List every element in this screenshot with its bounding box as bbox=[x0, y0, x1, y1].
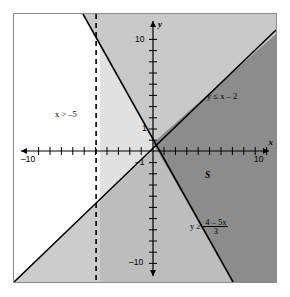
label-y-le-x-minus-2: y ≤ x – 2 bbox=[207, 92, 237, 101]
inequality-graph-figure: x y –10 10 10 1 –1 –10 y ≤ x – 2 x > –5 … bbox=[0, 0, 290, 297]
x-tick-label-10: 10 bbox=[254, 155, 263, 164]
y-tick-label-10: 10 bbox=[135, 35, 144, 44]
label-x-gt-neg5: x > –5 bbox=[55, 110, 77, 119]
plot-canvas bbox=[14, 14, 276, 282]
y-tick-label-neg1: –1 bbox=[135, 158, 144, 167]
label-y-ge-fraction: y ≥ 4 – 5x 3 bbox=[190, 218, 228, 237]
y-tick-label-neg10: –10 bbox=[129, 258, 143, 267]
plot-frame: x y –10 10 10 1 –1 –10 y ≤ x – 2 x > –5 … bbox=[13, 13, 277, 283]
y-tick-label-1: 1 bbox=[142, 124, 147, 133]
x-tick-label-neg10: –10 bbox=[21, 155, 35, 164]
x-axis-label: x bbox=[269, 138, 274, 147]
fraction: 4 – 5x 3 bbox=[203, 218, 228, 237]
fraction-prefix: y ≥ bbox=[190, 221, 201, 231]
fraction-denominator: 3 bbox=[203, 227, 228, 236]
label-solution-set-s: S bbox=[205, 170, 210, 180]
y-axis-label: y bbox=[158, 20, 162, 29]
